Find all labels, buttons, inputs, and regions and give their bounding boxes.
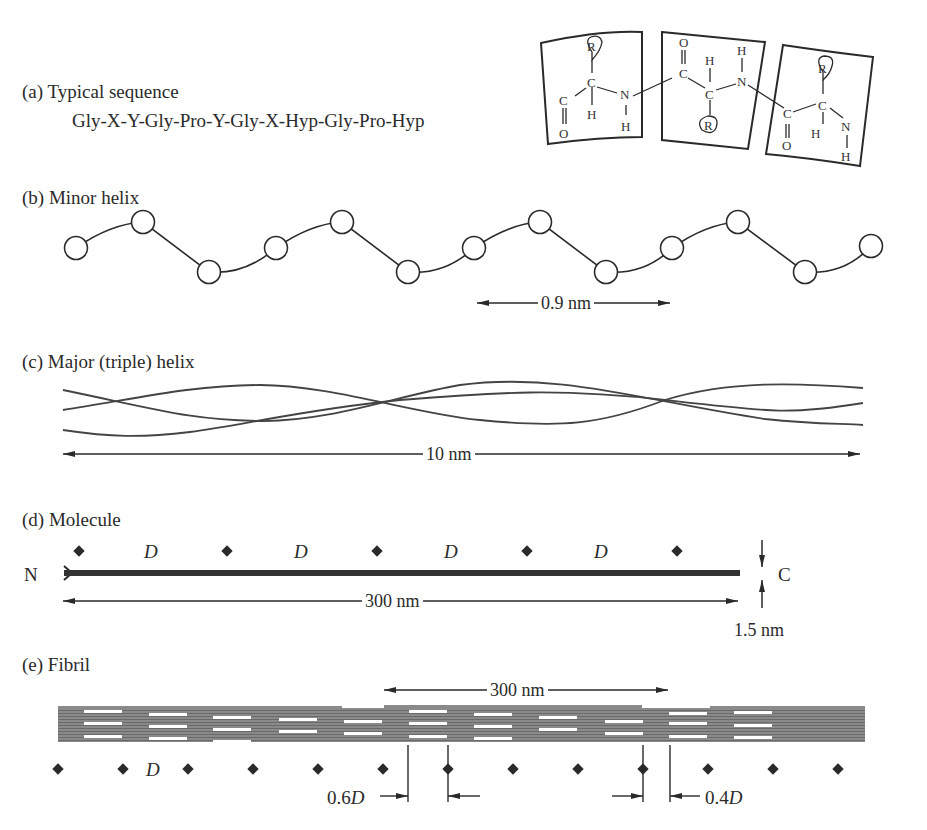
gap-overlap-dimension-lines bbox=[380, 745, 700, 802]
panel-c-label: (c) Major (triple) helix bbox=[22, 352, 195, 371]
triple-helix-dimension: 10 nm bbox=[423, 445, 475, 463]
fibril-diagram bbox=[52, 690, 865, 802]
c-terminus-label: C bbox=[778, 565, 791, 584]
molecule-width-label: 1.5 nm bbox=[731, 621, 787, 639]
svg-text:H: H bbox=[705, 53, 714, 68]
svg-text:C: C bbox=[679, 66, 688, 81]
gap-zone-label: 0.6D bbox=[327, 788, 364, 807]
svg-text:O: O bbox=[679, 35, 688, 50]
minor-helix bbox=[65, 211, 883, 284]
svg-text:O: O bbox=[559, 126, 568, 141]
fibril-length-label: 300 nm bbox=[487, 681, 548, 699]
svg-text:C: C bbox=[559, 93, 568, 108]
panel-e-label: (e) Fibril bbox=[22, 655, 90, 674]
svg-text:C: C bbox=[818, 98, 827, 113]
panel-d-label: (d) Molecule bbox=[22, 510, 121, 529]
panel-a-label: (a) Typical sequence bbox=[22, 82, 179, 101]
fibril-period-label: D bbox=[146, 760, 160, 779]
svg-text:H: H bbox=[621, 119, 630, 134]
svg-text:R: R bbox=[704, 118, 713, 133]
svg-text:C: C bbox=[587, 75, 596, 90]
svg-text:H: H bbox=[841, 149, 850, 164]
svg-text:C: C bbox=[783, 106, 792, 121]
overlap-zone-d-symbol: D bbox=[729, 787, 743, 808]
molecule-period-label-2: D bbox=[294, 542, 308, 561]
molecule-period-markers bbox=[73, 545, 682, 556]
typical-sequence: Gly-X-Y-Gly-Pro-Y-Gly-X-Hyp-Gly-Pro-Hyp bbox=[72, 111, 425, 130]
svg-text:H: H bbox=[737, 43, 746, 58]
molecule-period-label-4: D bbox=[594, 542, 608, 561]
minor-helix-dimension: 0.9 nm bbox=[538, 294, 594, 312]
svg-text:N: N bbox=[620, 87, 630, 102]
svg-text:O: O bbox=[782, 138, 791, 153]
svg-text:N: N bbox=[841, 119, 851, 134]
triple-helix bbox=[63, 382, 863, 436]
overlap-zone-value: 0.4 bbox=[705, 787, 729, 808]
n-terminus-label: N bbox=[24, 565, 38, 584]
gap-zone-d-symbol: D bbox=[351, 787, 365, 808]
svg-text:R: R bbox=[587, 39, 596, 54]
gap-zone-value: 0.6 bbox=[327, 787, 351, 808]
svg-text:H: H bbox=[811, 126, 820, 141]
svg-text:R: R bbox=[818, 61, 827, 76]
overlap-zone-label: 0.4D bbox=[705, 788, 742, 807]
svg-text:N: N bbox=[737, 74, 747, 89]
svg-text:H: H bbox=[587, 107, 596, 122]
panel-b-label: (b) Minor helix bbox=[22, 188, 139, 207]
molecule-length-label: 300 nm bbox=[362, 592, 423, 610]
molecule-period-label-3: D bbox=[444, 542, 458, 561]
molecule-period-label-1: D bbox=[144, 542, 158, 561]
svg-text:C: C bbox=[705, 87, 714, 102]
molecule-rod bbox=[64, 570, 740, 576]
